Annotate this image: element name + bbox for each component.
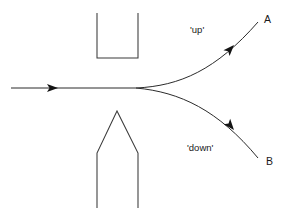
label-beam-a: A <box>264 13 271 25</box>
bottom-pole-piece <box>97 111 138 208</box>
label-down: 'down' <box>187 142 214 153</box>
top-pole-piece <box>97 13 138 58</box>
label-up: 'up' <box>190 24 204 35</box>
stern-gerlach-diagram: 'up' 'down' A B <box>0 0 286 217</box>
diagram-canvas: 'up' 'down' A B <box>0 0 286 217</box>
label-beam-b: B <box>266 155 273 167</box>
